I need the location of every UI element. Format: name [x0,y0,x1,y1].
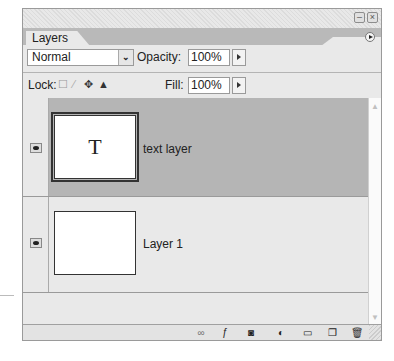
fill-slider-button[interactable] [232,77,246,94]
minimize-button[interactable]: – [354,12,365,23]
eye-icon[interactable] [30,143,42,153]
layer-mask-icon[interactable]: ◙ [245,327,257,338]
lock-row: Lock: ☐ ⁄ ✥ ▲ Fill: 100% [23,73,381,98]
blend-row: Normal ⌄ Opacity: 100% [23,45,381,71]
new-group-icon[interactable]: ▭ [301,327,313,338]
scroll-up-icon[interactable]: ▲ [371,102,379,111]
tab-strip: Layers [23,28,381,45]
close-button[interactable]: × [367,12,378,23]
eye-icon[interactable] [30,238,42,248]
visibility-column [23,98,49,196]
adjustment-layer-icon[interactable]: ◐ [275,327,287,338]
lock-all-icon[interactable]: ▲ [98,78,109,90]
layers-panel: – × Layers Normal ⌄ Opacity: 100% Lock: … [22,8,382,341]
layer-thumbnail: T [54,115,136,179]
layer-name[interactable]: text layer [143,142,192,156]
lock-label: Lock: [28,77,57,94]
delete-layer-icon[interactable]: 🗑 [351,327,363,338]
minimize-icon: – [357,12,362,22]
lock-transparent-icon[interactable]: ☐ [58,78,68,90]
new-layer-icon[interactable]: ❐ [326,327,338,338]
lock-position-icon[interactable]: ✥ [84,78,93,90]
tab-layers[interactable]: Layers [26,31,90,46]
opacity-label: Opacity: [137,49,181,66]
layers-list: T text layer Layer 1 [23,98,369,326]
layers-scrollbar[interactable]: ▲ ▼ [368,98,381,326]
fill-input[interactable]: 100% [188,77,230,94]
opacity-slider-button[interactable] [232,49,246,66]
link-layers-icon[interactable]: ∞ [195,327,207,338]
lock-image-icon[interactable]: ⁄ [73,78,75,90]
layer-row-text-layer[interactable]: T text layer [23,98,369,197]
visibility-column [23,197,49,292]
resize-grip[interactable] [369,325,381,340]
text-layer-glyph: T [55,134,135,160]
panel-title-bar[interactable]: – × [23,9,381,28]
scroll-down-icon[interactable]: ▼ [371,313,379,322]
panel-menu-icon[interactable] [365,32,375,42]
opacity-input[interactable]: 100% [188,49,230,66]
layer-style-icon[interactable]: ƒ [219,327,231,338]
bottom-toolbar: ∞ ƒ ◙ ◐ ▭ ❐ 🗑 [23,324,381,340]
blend-mode-value: Normal [32,50,71,64]
layer-row-layer-1[interactable]: Layer 1 [23,197,369,293]
decorative-line [0,295,14,296]
chevron-down-icon[interactable]: ⌄ [118,50,133,65]
close-icon: × [370,12,375,22]
fill-label: Fill: [165,77,184,94]
blend-mode-select[interactable]: Normal ⌄ [27,49,134,66]
layer-name[interactable]: Layer 1 [143,237,183,251]
layer-thumbnail [54,211,136,275]
